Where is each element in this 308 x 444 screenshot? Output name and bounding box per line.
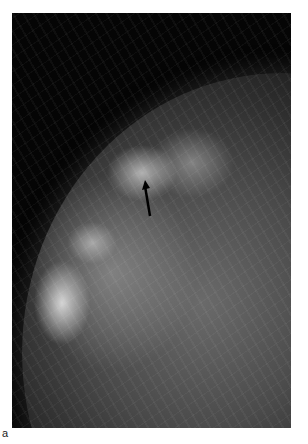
arrow-icon bbox=[140, 178, 160, 218]
breast-tissue-region bbox=[22, 73, 291, 428]
panel-label: a bbox=[2, 426, 8, 440]
mammogram-image bbox=[12, 13, 291, 428]
